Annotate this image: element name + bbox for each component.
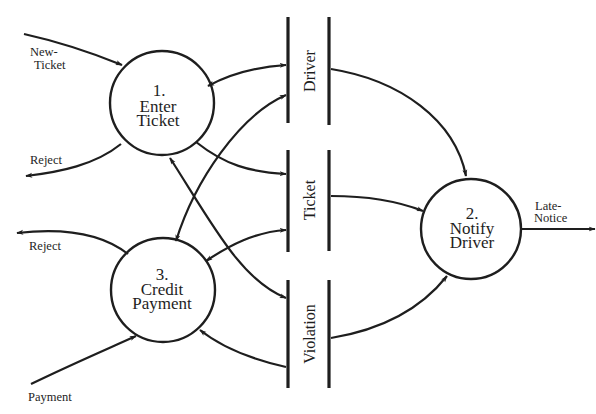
flow-driver-to-notify-driver[interactable] xyxy=(331,69,466,176)
flow-reject-3[interactable]: Reject xyxy=(17,231,128,254)
store-label-driver: Driver xyxy=(301,49,318,91)
flow-violation-to-credit-payment[interactable] xyxy=(200,330,286,367)
process-notify-driver[interactable]: 2. Notify Driver xyxy=(421,179,521,279)
process-name-line2: Driver xyxy=(450,233,495,252)
data-store-violation[interactable]: Violation xyxy=(288,280,329,388)
flow-credit-payment-driver[interactable] xyxy=(176,95,286,241)
data-flow-diagram: Driver Ticket Violation 1. Enter Ticket … xyxy=(0,0,596,414)
flow-new-ticket[interactable]: New- Ticket xyxy=(24,34,122,72)
flow-enter-ticket-driver[interactable] xyxy=(208,65,286,86)
flow-label-line2: Ticket xyxy=(34,58,66,72)
flow-label-line2: Notice xyxy=(534,211,568,225)
store-label-ticket: Ticket xyxy=(301,179,318,220)
flow-ticket-to-notify-driver[interactable] xyxy=(331,196,423,211)
flow-label: Payment xyxy=(28,390,72,404)
flow-label-line1: New- xyxy=(30,45,58,59)
data-store-ticket[interactable]: Ticket xyxy=(288,150,329,252)
flow-label: Reject xyxy=(29,239,61,253)
flow-payment[interactable]: Payment xyxy=(28,336,136,404)
process-enter-ticket[interactable]: 1. Enter Ticket xyxy=(110,51,214,155)
flow-late-notice[interactable]: Late- Notice xyxy=(521,199,595,229)
flow-violation-to-notify-driver[interactable] xyxy=(331,276,447,338)
store-label-violation: Violation xyxy=(301,304,318,363)
flow-reject-1[interactable]: Reject xyxy=(26,144,121,176)
flow-arrow xyxy=(31,336,136,384)
data-store-driver[interactable]: Driver xyxy=(288,17,329,125)
process-name-line2: Payment xyxy=(132,294,192,313)
process-name-line2: Ticket xyxy=(137,111,180,130)
flow-label: Reject xyxy=(30,153,62,167)
flow-enter-ticket-violation[interactable] xyxy=(170,158,286,298)
